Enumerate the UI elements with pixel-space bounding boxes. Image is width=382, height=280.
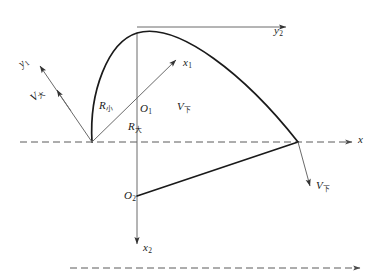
diagram-canvas: y1 V大 R小 O1 R大 V下 x1 y2 x O2 x2 V下 [0, 0, 382, 280]
label-velocity-small-right: V下 [316, 180, 330, 193]
label-velocity-big: V大 [36, 92, 50, 105]
label-y1-axis: y1 [24, 58, 33, 71]
label-radius-small: R小 [99, 100, 113, 113]
velocity-small-vector-arrow [298, 142, 310, 186]
lower-chord-line [137, 142, 298, 196]
label-x2-axis: x2 [143, 242, 152, 255]
label-x-axis: x [358, 134, 363, 145]
label-y2-axis: y2 [274, 25, 283, 38]
label-origin2: O2 [124, 190, 136, 203]
diagram-vector-layer [0, 0, 382, 280]
velocity-big-vector-arrow [57, 90, 71, 111]
label-x1-axis: x1 [183, 57, 192, 70]
outer-trajectory-arc [92, 31, 298, 142]
label-velocity-small-center: V下 [177, 101, 191, 114]
label-radius-large: R大 [128, 121, 142, 134]
label-origin1: O1 [140, 103, 152, 116]
